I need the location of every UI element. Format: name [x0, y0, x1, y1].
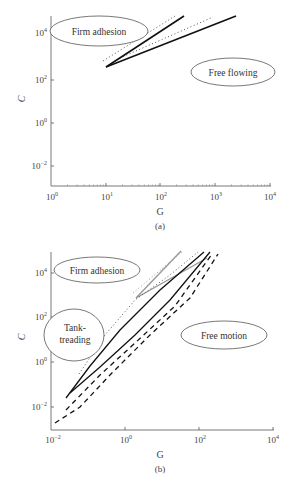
y-tick-label-a: 10−2 — [32, 160, 47, 171]
y-tick-label-b: 102 — [35, 311, 47, 322]
x-tick-label-a: 101 — [101, 191, 113, 202]
region-label-firm-adhesion-a: Firm adhesion — [72, 27, 127, 37]
x-tick-label-b: 102 — [194, 434, 206, 445]
y-tick-label-b: 100 — [35, 356, 47, 367]
region-label-free-motion-b: Free motion — [201, 331, 247, 341]
y-axis-title-b: C — [16, 333, 27, 340]
x-tick-label-a: 104 — [264, 191, 276, 202]
y-tick-label-b: 104 — [35, 267, 47, 278]
region-label-firm-adhesion-b: Firm adhesion — [70, 266, 125, 276]
gray-solid-line-shallow-b — [136, 258, 207, 298]
x-tick-label-b: 100 — [120, 434, 132, 445]
y-tick-label-a: 100 — [35, 117, 47, 128]
y-tick-label-b: 10−2 — [32, 401, 47, 412]
x-tick-label-a: 102 — [155, 191, 167, 202]
x-axis-title-b: G — [156, 449, 163, 460]
region-label-free-flowing-a: Free flowing — [209, 68, 258, 78]
x-tick-label-a: 103 — [210, 191, 222, 202]
x-tick-label-a: 100 — [46, 191, 58, 202]
y-axis-title-a: C — [16, 95, 27, 102]
region-label-tank-treading-line2-b: treading — [59, 335, 90, 345]
x-axis-title-a: G — [156, 206, 163, 217]
chart-panel-b: 104 102 100 10−2 10−2 100 102 104 G C (b… — [16, 251, 279, 474]
chart-panel-a: 104 102 100 10−2 100 101 102 103 104 G C… — [16, 16, 276, 231]
panel-label-b: (b) — [155, 464, 166, 474]
region-label-tank-treading-line1-b: Tank- — [64, 323, 86, 333]
x-tick-label-b: 104 — [267, 434, 279, 445]
y-tick-label-a: 102 — [35, 74, 47, 85]
x-tick-label-b: 10−2 — [45, 434, 60, 445]
y-tick-label-a: 104 — [35, 27, 47, 38]
panel-label-a: (a) — [155, 221, 165, 231]
